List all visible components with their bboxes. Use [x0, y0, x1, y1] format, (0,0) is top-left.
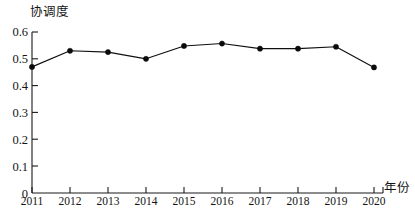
data-point [295, 46, 300, 51]
data-point [105, 50, 110, 55]
data-point [181, 43, 186, 48]
plot-svg [0, 0, 415, 216]
y-axis [32, 32, 38, 193]
data-point [333, 44, 338, 49]
data-point [219, 41, 224, 46]
line-chart: 协调度 年份 0.6 0.5 0.4 0.3 0.2 0.1 0 2011 20… [0, 0, 415, 216]
data-point [29, 64, 34, 69]
data-point [143, 56, 148, 61]
chart-screenshot: 协调度 年份 0.6 0.5 0.4 0.3 0.2 0.1 0 2011 20… [0, 0, 415, 216]
data-point [371, 65, 376, 70]
data-point [67, 48, 72, 53]
data-series-coordination-degree [29, 41, 376, 70]
data-point [257, 46, 262, 51]
x-axis [32, 187, 383, 193]
